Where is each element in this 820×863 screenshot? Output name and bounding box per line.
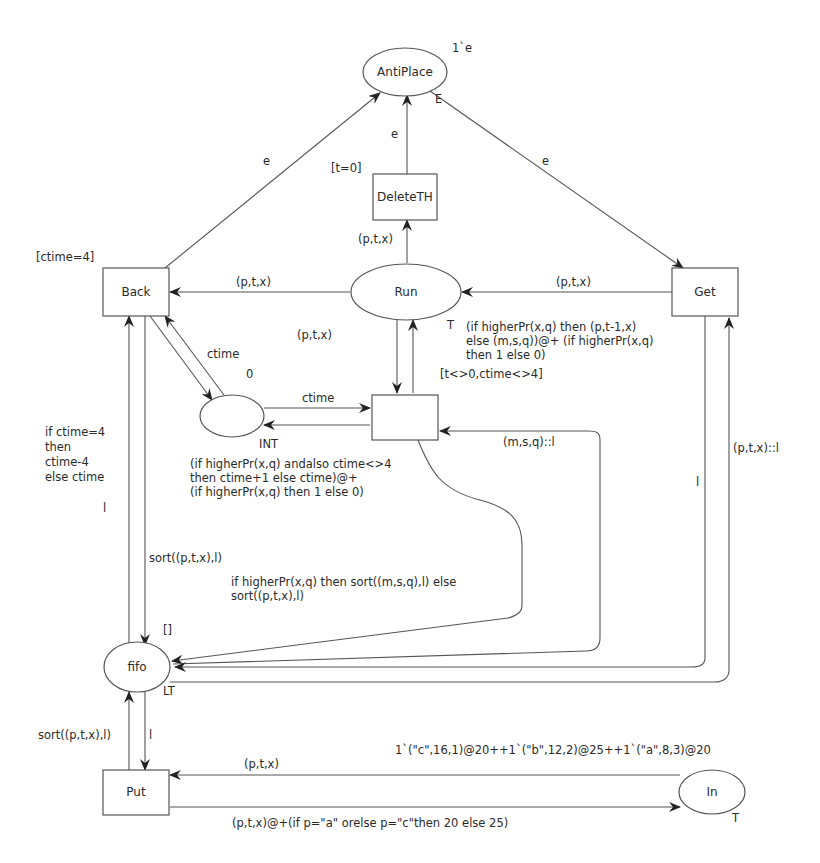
place-run[interactable]: Run [351, 264, 461, 320]
transition-back[interactable]: Back [103, 268, 169, 316]
arc-label-run-to-back: (p,t,x) [236, 275, 271, 289]
transition-process[interactable] [372, 395, 438, 440]
place-in-label: In [706, 785, 717, 799]
arc-label-in-to-put: (p,t,x) [244, 757, 279, 771]
svg-text:(if higherPr(x,q) then (p,t-1,: (if higherPr(x,q) then (p,t-1,x) [466, 320, 636, 334]
svg-text:if ctime=4: if ctime=4 [45, 425, 105, 439]
transition-put[interactable]: Put [103, 770, 169, 815]
transition-get-label: Get [694, 285, 716, 299]
arc-label-counter-to-back: if ctime=4 then ctime-4 else ctime [45, 425, 105, 484]
counter-marking: 0 [246, 367, 253, 381]
arc-back-to-counter [150, 316, 212, 400]
deleteth-guard: [t=0] [331, 161, 361, 175]
svg-text:then ctime+1 else ctime)@+: then ctime+1 else ctime)@+ [190, 471, 358, 485]
back-guard: [ctime=4] [36, 250, 94, 264]
arc-label-back-to-antiplace: e [263, 154, 270, 168]
arc-label-put-to-fifo: sort((p,t,x),l) [38, 728, 111, 742]
arc-label-process-to-counter: (if higherPr(x,q) andalso ctime<>4 then … [190, 457, 392, 499]
antiplace-marking: 1`e [452, 41, 472, 55]
svg-text:else (m,s,q))@+ (if higherPr(x: else (m,s,q))@+ (if higherPr(x,q) [466, 334, 654, 348]
arc-label-fifo-to-get: (p,t,x)::l [733, 441, 779, 455]
transition-get[interactable]: Get [672, 268, 738, 316]
arc-label-get-to-fifo: l [696, 475, 699, 489]
svg-text:ctime-4: ctime-4 [45, 455, 89, 469]
transition-put-label: Put [126, 785, 146, 799]
arc-label-antiplace-to-get: e [542, 154, 549, 168]
arc-label-process-to-run: (if higherPr(x,q) then (p,t-1,x) else (m… [466, 320, 654, 362]
arc-label-counter-to-process: ctime [302, 391, 334, 405]
arc-antiplace-to-get [430, 91, 683, 268]
svg-text:then: then [45, 440, 71, 454]
arc-label-run-to-deleteth: (p,t,x) [358, 232, 393, 246]
antiplace-colorset: E [435, 92, 442, 106]
transition-deleteth[interactable]: DeleteTH [373, 174, 437, 220]
svg-text:(if higherPr(x,q) then 1 else: (if higherPr(x,q) then 1 else 0) [190, 485, 364, 499]
petri-net-diagram: AntiPlace 1`e E Run T 0 INT fifo [] LT I… [0, 0, 820, 863]
place-fifo-label: fifo [127, 660, 146, 674]
svg-text:if higherPr(x,q) then sort((m,: if higherPr(x,q) then sort((m,s,q),l) el… [231, 575, 456, 589]
process-guard: [t<>0,ctime<>4] [440, 367, 543, 381]
transition-deleteth-label: DeleteTH [377, 190, 433, 204]
arc-label-fifo-to-process: (m,s,q)::l [503, 435, 555, 449]
place-antiplace-label: AntiPlace [377, 65, 433, 79]
counter-colorset: INT [259, 437, 279, 451]
transition-back-label: Back [121, 285, 150, 299]
arc-label-back-counter: ctime [207, 347, 239, 361]
arc-label-deleteth-to-antiplace: e [391, 127, 398, 141]
fifo-marking: [] [163, 623, 172, 637]
arc-label-run-to-process: (p,t,x) [297, 328, 332, 342]
svg-text:sort((p,t,x),l): sort((p,t,x),l) [231, 589, 304, 603]
arc-label-back-to-fifo: sort((p,t,x),l) [149, 551, 222, 565]
arc-label-get-to-run: (p,t,x) [556, 275, 591, 289]
arc-label-process-to-fifo: if higherPr(x,q) then sort((m,s,q),l) el… [231, 575, 456, 603]
arc-label-put-to-in: (p,t,x)@+(if p="a" orelse p="c"then 20 e… [232, 816, 508, 830]
run-colorset: T [446, 318, 455, 332]
place-fifo[interactable]: fifo [104, 642, 170, 692]
in-marking: 1`("c",16,1)@20++1`("b",12,2)@25++1`("a"… [395, 743, 711, 757]
arc-label-fifo-to-back: l [103, 501, 106, 515]
place-counter[interactable] [200, 395, 264, 437]
svg-text:then 1 else 0): then 1 else 0) [466, 348, 546, 362]
in-colorset: T [731, 811, 740, 825]
arc-label-fifo-to-put: l [149, 728, 152, 742]
svg-text:(if higherPr(x,q) andalso ctim: (if higherPr(x,q) andalso ctime<>4 [190, 457, 392, 471]
place-in[interactable]: In [679, 770, 745, 814]
svg-text:else ctime: else ctime [45, 470, 104, 484]
fifo-colorset: LT [163, 684, 176, 698]
place-antiplace[interactable]: AntiPlace [363, 48, 447, 96]
arc-back-to-antiplace [165, 93, 380, 268]
place-run-label: Run [394, 285, 417, 299]
